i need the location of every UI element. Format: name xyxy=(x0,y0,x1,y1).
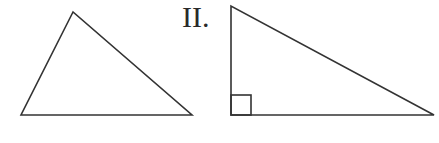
triangle-2 xyxy=(231,6,434,115)
right-angle-marker xyxy=(231,95,251,115)
diagram-canvas xyxy=(0,0,439,143)
figure-label: II. xyxy=(182,0,209,34)
triangle-1 xyxy=(21,12,192,115)
